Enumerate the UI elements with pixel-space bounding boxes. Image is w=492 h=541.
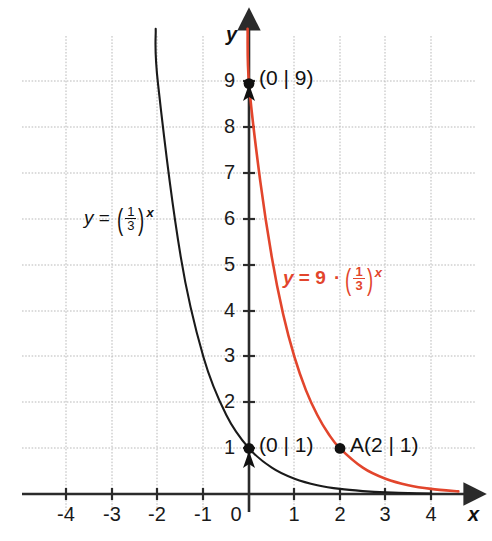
- paren-open-black: (: [117, 206, 123, 233]
- ytick-2: 2: [211, 390, 235, 413]
- formula-black-curve: y = (13)x: [84, 205, 154, 233]
- ytick-3: 3: [211, 344, 235, 367]
- xtick--4: -4: [51, 503, 81, 526]
- ytick-6: 6: [211, 207, 235, 230]
- xtick-4: 4: [416, 503, 446, 526]
- paren-open-red: (: [345, 266, 351, 293]
- paren-close-red: ): [367, 266, 373, 293]
- xtick-0: 0: [221, 503, 251, 526]
- fraction-red-denominator: 3: [353, 278, 364, 292]
- formula-red-curve: y = 9 ·(13)x: [283, 265, 382, 293]
- formula-red-dot: ·: [331, 267, 343, 289]
- curve-red: [248, 29, 459, 492]
- label-point-0-1: (0 | 1): [259, 433, 313, 457]
- x-axis-label: x: [468, 503, 479, 526]
- ytick-4: 4: [211, 299, 235, 322]
- formula-black-exponent: x: [146, 205, 153, 220]
- point-a-2-1: [335, 443, 346, 454]
- formula-red-coefficient: 9: [315, 267, 326, 288]
- xtick-1: 1: [279, 503, 309, 526]
- fraction-black-denominator: 3: [125, 218, 136, 232]
- fraction-red-numerator: 1: [353, 265, 364, 278]
- xtick--1: -1: [188, 503, 218, 526]
- ytick-8: 8: [211, 115, 235, 138]
- formula-red-exponent: x: [375, 265, 382, 280]
- ytick-5: 5: [211, 253, 235, 276]
- ytick-7: 7: [211, 161, 235, 184]
- label-point-0-9: (0 | 9): [259, 66, 313, 90]
- xtick--3: -3: [97, 503, 127, 526]
- paren-close-black: ): [138, 206, 144, 233]
- xtick-2: 2: [325, 503, 355, 526]
- ytick-9: 9: [211, 69, 235, 92]
- fraction-black-numerator: 1: [125, 205, 136, 218]
- xtick--2: -2: [142, 503, 172, 526]
- formula-red-lhs: y: [283, 267, 294, 288]
- ytick-1: 1: [211, 436, 235, 459]
- label-point-a: A(2 | 1): [350, 433, 418, 457]
- y-axis-label: y: [226, 23, 237, 46]
- fraction-red: 13: [353, 265, 364, 293]
- xtick-3: 3: [370, 503, 400, 526]
- curve-black: [155, 29, 431, 494]
- chart-canvas: -4 -3 -2 -1 0 1 2 3 4 9 8 7 6 5 4 3 2 1 …: [0, 0, 492, 541]
- fraction-black: 13: [125, 205, 136, 233]
- formula-black-equals: =: [99, 207, 110, 228]
- formula-red-equals: =: [299, 267, 310, 288]
- coordinate-plot: [0, 0, 492, 541]
- formula-black-lhs: y: [84, 207, 94, 228]
